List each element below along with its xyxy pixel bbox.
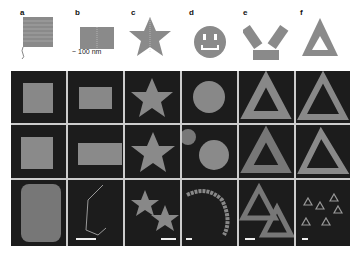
triangle-rectangles-schematic: [243, 12, 293, 64]
afm-b-1: [68, 71, 123, 123]
square-schematic: [20, 12, 56, 62]
afm-image-grid: [11, 71, 350, 246]
afm-c-2: [125, 125, 180, 178]
afm-e-1: [239, 71, 294, 123]
star-schematic: [125, 12, 175, 64]
afm-d-2: [182, 125, 237, 178]
sharp-triangle-schematic: [300, 12, 350, 64]
afm-a-1: [11, 71, 66, 123]
scale-bar: [302, 238, 308, 240]
smiley-schematic: [190, 12, 230, 64]
afm-f-1: [296, 71, 350, 123]
rectangle-schematic: [78, 12, 116, 52]
scale-bar: [186, 238, 192, 240]
scale-bar: [76, 238, 96, 240]
scale-bar: [161, 238, 176, 240]
afm-f-2: [296, 125, 350, 178]
afm-e-3: [239, 180, 294, 246]
scale-annotation: ~ 100 nm: [72, 48, 101, 55]
afm-a-2: [11, 125, 66, 178]
afm-e-2: [239, 125, 294, 178]
afm-c-3: [125, 180, 180, 246]
afm-c-1: [125, 71, 180, 123]
afm-a-3: [11, 180, 66, 246]
afm-f-3: [296, 180, 350, 246]
afm-d-1: [182, 71, 237, 123]
afm-b-3: [68, 180, 123, 246]
afm-d-3: [182, 180, 237, 246]
afm-b-2: [68, 125, 123, 178]
scale-bar: [245, 238, 255, 240]
